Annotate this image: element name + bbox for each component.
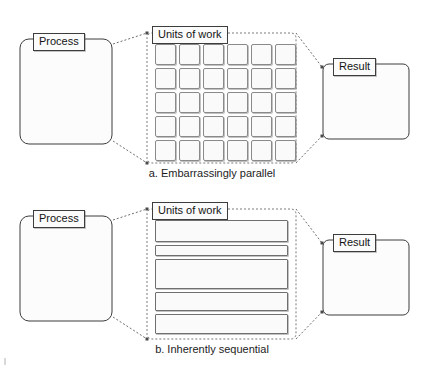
process-label-b: Process bbox=[33, 210, 85, 228]
units-of-work-label-a: Units of work bbox=[152, 26, 228, 44]
result-label-a: Result bbox=[333, 58, 376, 76]
scan-artifact-speck bbox=[4, 358, 6, 365]
work-unit-bar bbox=[155, 292, 288, 311]
work-unit-cell bbox=[251, 68, 272, 89]
work-unit-cell bbox=[203, 116, 224, 137]
work-unit-cell bbox=[227, 92, 248, 113]
work-unit-cell bbox=[275, 44, 296, 65]
work-unit-cell bbox=[155, 92, 176, 113]
units-of-work-label-b: Units of work bbox=[152, 202, 228, 220]
fan-endpoint-b-3 bbox=[321, 242, 324, 245]
work-unit-cell bbox=[275, 140, 296, 161]
work-unit-bar bbox=[155, 314, 288, 334]
work-unit-cell bbox=[179, 92, 200, 113]
work-unit-bar bbox=[155, 220, 288, 242]
work-unit-bar bbox=[155, 259, 288, 289]
work-unit-cell bbox=[275, 92, 296, 113]
fan-line-b-right-top bbox=[296, 209, 322, 243]
work-unit-cell bbox=[155, 44, 176, 65]
work-unit-cell bbox=[155, 68, 176, 89]
work-unit-cell bbox=[203, 68, 224, 89]
panel-inherently-sequential: Process Result Units of work b. Inherent… bbox=[0, 185, 424, 373]
result-label-b: Result bbox=[333, 234, 376, 252]
work-unit-cell bbox=[251, 140, 272, 161]
work-unit-cell bbox=[203, 92, 224, 113]
fan-endpoint-b-1 bbox=[146, 208, 149, 211]
work-unit-bar bbox=[155, 245, 288, 256]
caption-panel-b: b. Inherently sequential bbox=[0, 342, 424, 356]
fan-endpoint-b-4 bbox=[321, 311, 324, 314]
work-unit-cell bbox=[155, 116, 176, 137]
fan-line-b-left-top bbox=[113, 209, 147, 220]
work-unit-cell bbox=[251, 116, 272, 137]
fan-line-b-right-bottom bbox=[296, 312, 322, 339]
work-unit-cell bbox=[227, 68, 248, 89]
fan-endpoint-b-2 bbox=[146, 338, 149, 341]
work-unit-cell bbox=[179, 44, 200, 65]
process-label-a: Process bbox=[33, 33, 85, 51]
work-unit-cell bbox=[227, 116, 248, 137]
work-unit-cell bbox=[251, 44, 272, 65]
work-unit-cell bbox=[275, 116, 296, 137]
work-unit-cell bbox=[227, 44, 248, 65]
figure-canvas: Process Result Units of work a. Embarras… bbox=[0, 0, 424, 373]
work-unit-cell bbox=[227, 140, 248, 161]
work-unit-cell bbox=[155, 140, 176, 161]
work-unit-cell bbox=[179, 116, 200, 137]
work-unit-cell bbox=[251, 92, 272, 113]
caption-panel-a: a. Embarrassingly parallel bbox=[0, 166, 424, 180]
work-unit-cell bbox=[179, 140, 200, 161]
fan-line-b-left-bottom bbox=[113, 317, 147, 339]
process-box-b bbox=[20, 216, 112, 321]
work-unit-cell bbox=[203, 44, 224, 65]
work-unit-cell bbox=[275, 68, 296, 89]
work-unit-cell bbox=[179, 68, 200, 89]
work-unit-cell bbox=[203, 140, 224, 161]
